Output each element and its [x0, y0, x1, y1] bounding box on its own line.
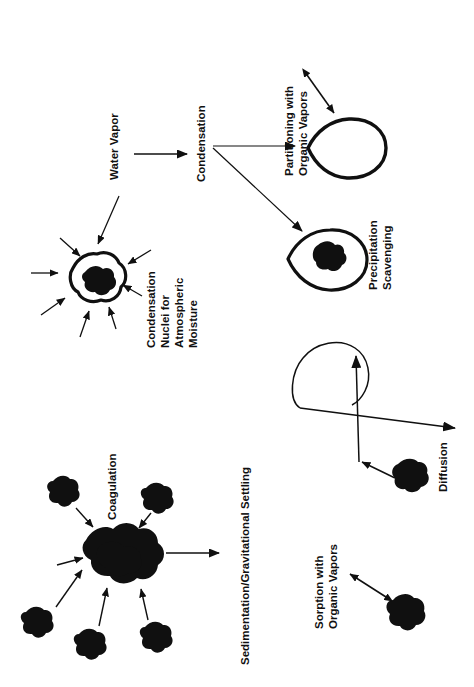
- figure-canvas: Water Vapor Condensation Partitioning wi…: [0, 0, 474, 687]
- canvas-background: [0, 0, 474, 687]
- svg-text:Organic Vapors: Organic Vapors: [297, 91, 309, 176]
- svg-text:Atmospheric: Atmospheric: [173, 277, 185, 348]
- label-water-vapor: Water Vapor: [108, 113, 120, 180]
- svg-text:Condensation: Condensation: [145, 271, 157, 348]
- condensation-nuclei-particle: [70, 253, 125, 302]
- svg-text:Sorption with: Sorption with: [313, 556, 325, 629]
- label-coagulation: Coagulation: [106, 454, 118, 520]
- label-diffusion: Diffusion: [437, 442, 449, 492]
- svg-text:Coagulation: Coagulation: [106, 454, 118, 520]
- svg-text:Condensation: Condensation: [195, 105, 207, 182]
- label-condensation: Condensation: [195, 105, 207, 182]
- svg-text:Organic Vapors: Organic Vapors: [327, 544, 339, 629]
- svg-text:Water Vapor: Water Vapor: [108, 113, 120, 180]
- svg-text:Precipitation: Precipitation: [367, 220, 379, 290]
- svg-text:Diffusion: Diffusion: [437, 442, 449, 492]
- svg-text:Sedimentation/Gravitational Se: Sedimentation/Gravitational Settling: [239, 467, 251, 665]
- svg-text:Nuclei for: Nuclei for: [159, 294, 171, 348]
- svg-text:Moisture: Moisture: [187, 300, 199, 348]
- svg-text:Scavenging: Scavenging: [381, 225, 393, 290]
- aerosol-process-diagram: Water Vapor Condensation Partitioning wi…: [0, 0, 474, 687]
- svg-text:Partitioning with: Partitioning with: [283, 86, 295, 176]
- label-sedimentation-gravitational-settling: Sedimentation/Gravitational Settling: [239, 467, 251, 665]
